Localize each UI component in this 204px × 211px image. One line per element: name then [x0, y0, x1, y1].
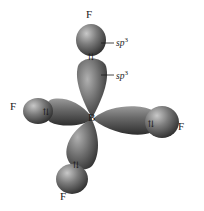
orbital-bottom: ⇅: [56, 120, 98, 194]
bf4-orbital-diagram: ⇅ ⇅ ⇅ ⇅ F F F F B sp3 sp3: [0, 0, 204, 211]
orbital-top: ⇅: [76, 24, 107, 118]
annotation-sp3-fluorine: sp3: [116, 36, 128, 48]
orbital-right: ⇅: [94, 106, 179, 138]
label-boron: B: [88, 111, 95, 123]
label-fluorine-right: F: [178, 120, 184, 132]
orbital-diagram-svg: ⇅ ⇅ ⇅ ⇅ F F F F B sp3 sp3: [0, 0, 204, 211]
electron-pair-icon: ⇅: [42, 107, 50, 117]
electron-pair-icon: ⇅: [72, 160, 80, 170]
orbital-left: ⇅: [23, 98, 92, 126]
label-fluorine-top: F: [86, 8, 92, 20]
label-fluorine-left: F: [10, 100, 16, 112]
annotation-sp3-boron: sp3: [116, 69, 128, 81]
electron-pair-icon: ⇅: [87, 52, 95, 62]
label-fluorine-bottom: F: [60, 190, 66, 202]
electron-pair-icon: ⇅: [147, 119, 155, 129]
